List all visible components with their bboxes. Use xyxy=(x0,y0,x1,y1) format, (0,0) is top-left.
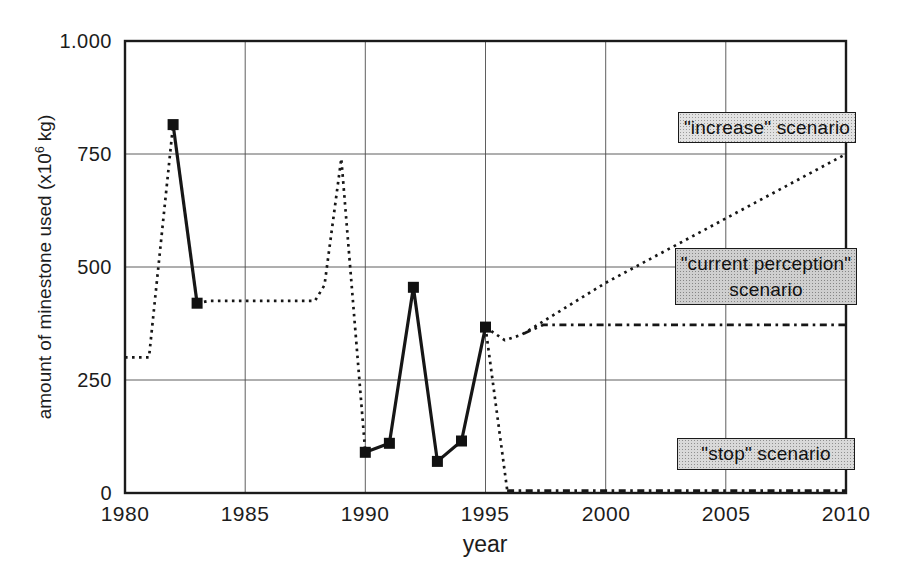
stop-scenario-text: "stop" scenario xyxy=(678,443,854,465)
data-point-marker xyxy=(480,322,491,333)
series-measured-solid-1982-1983 xyxy=(173,125,197,304)
series-measured-solid-1990-1995 xyxy=(365,287,485,461)
x-tick-1980: 1980 xyxy=(80,502,170,526)
x-tick-2005: 2005 xyxy=(681,502,771,526)
series-current-perception-scenario xyxy=(524,325,846,334)
minestone-usage-chart: amount of minestone used (x106 kg) year … xyxy=(0,0,906,580)
stop-scenario-label: "stop" scenario xyxy=(677,438,855,470)
data-point-marker xyxy=(192,298,203,309)
y-tick-500: 500 xyxy=(50,255,112,279)
x-tick-1985: 1985 xyxy=(200,502,290,526)
y-tick-750: 750 xyxy=(50,142,112,166)
y-tick-1000: 1.000 xyxy=(50,29,112,53)
data-point-marker xyxy=(456,436,467,447)
current-perception-scenario-label: "current perception" scenario xyxy=(675,248,857,305)
series-historical-dotted-1983-1990 xyxy=(197,159,365,453)
x-tick-1995: 1995 xyxy=(440,502,530,526)
data-point-marker xyxy=(360,447,371,458)
data-point-marker xyxy=(168,119,179,130)
x-tick-2000: 2000 xyxy=(561,502,651,526)
y-tick-250: 250 xyxy=(50,368,112,392)
data-point-marker xyxy=(384,438,395,449)
data-point-marker xyxy=(432,456,443,467)
series-historical-dotted-1980-1982 xyxy=(125,125,173,358)
current-perception-scenario-text-line2: scenario xyxy=(676,277,856,303)
y-axis-title-exponent: 6 xyxy=(33,146,47,153)
current-perception-scenario-text-line1: "current perception" xyxy=(676,251,856,277)
x-tick-1990: 1990 xyxy=(320,502,410,526)
x-tick-2010: 2010 xyxy=(801,502,891,526)
x-axis-title: year xyxy=(410,531,560,558)
increase-scenario-label: "increase" scenario xyxy=(678,112,856,143)
data-point-marker xyxy=(408,282,419,293)
increase-scenario-text: "increase" scenario xyxy=(679,117,855,139)
series-stop-scenario-drop xyxy=(486,327,508,489)
